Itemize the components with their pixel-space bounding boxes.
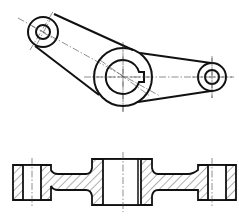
section-view [13, 152, 236, 212]
left-bore [23, 158, 41, 207]
right-bore [208, 158, 226, 207]
top-view [18, 10, 234, 112]
engineering-drawing [0, 0, 239, 224]
center-bore [103, 152, 141, 212]
